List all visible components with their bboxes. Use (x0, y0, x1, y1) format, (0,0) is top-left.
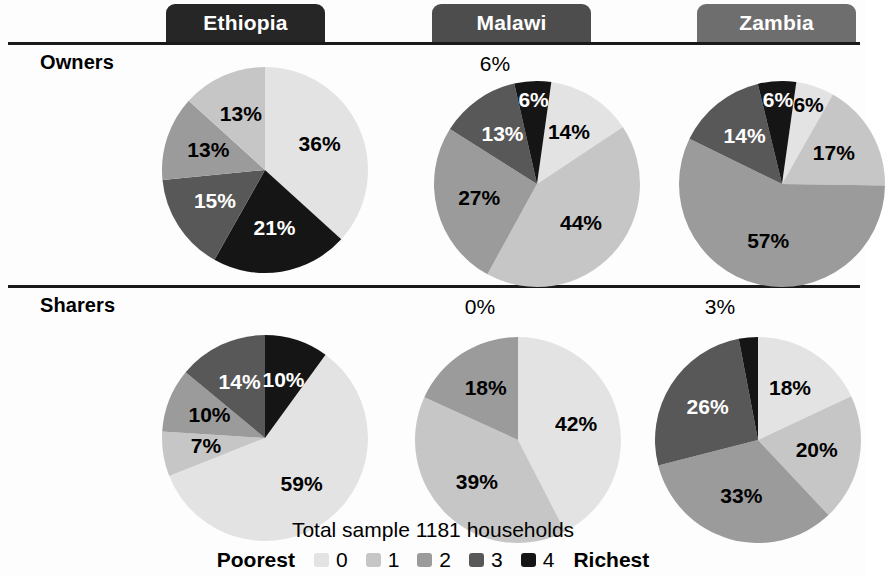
external-label-owners-malawi: 6% (455, 52, 535, 76)
legend-item-3: 3 (460, 548, 512, 572)
pie-sharers-malawi: 42%39%18% (408, 330, 628, 550)
pie-sharers-ethiopia: 59%7%10%14%10% (155, 328, 375, 548)
legend-swatch-0-icon (314, 553, 329, 567)
slice-label: 13% (220, 102, 262, 125)
legend-key-2: 2 (439, 548, 451, 572)
slice-label: 6% (763, 88, 794, 111)
column-tab-label: Zambia (739, 11, 814, 35)
external-label-sharers-zambia: 3% (680, 295, 760, 319)
column-tab-zambia: Zambia (697, 4, 856, 42)
legend-item-0: 0 (305, 548, 357, 572)
slice-label: 6% (793, 93, 824, 116)
slice-label: 44% (560, 211, 602, 234)
slice-label: 21% (253, 216, 295, 239)
pie-owners-zambia: 6%17%57%14%6% (672, 74, 889, 294)
row-label-sharers: Sharers (40, 294, 115, 317)
slice-label: 39% (456, 470, 498, 493)
legend-item-2: 2 (408, 548, 460, 572)
legend-swatch-1-icon (366, 553, 381, 567)
column-tab-label: Ethiopia (203, 11, 287, 35)
slice-label: 13% (481, 122, 523, 145)
slice-label: 14% (219, 370, 261, 393)
slice-label: 20% (796, 438, 838, 461)
row-label-owners: Owners (40, 51, 114, 74)
column-tab-malawi: Malawi (432, 4, 591, 42)
slice-label: 18% (769, 376, 811, 399)
pie-owners-malawi: 14%44%27%13%6% (427, 74, 647, 294)
slice-label: 26% (687, 395, 729, 418)
slice-label: 10% (262, 368, 304, 391)
divider-top (8, 42, 860, 45)
slice-label: 14% (548, 120, 590, 143)
slice-label: 17% (813, 141, 855, 164)
legend-key-0: 0 (336, 548, 348, 572)
legend-swatch-2-icon (417, 553, 432, 567)
legend-swatch-3-icon (469, 553, 484, 567)
legend-item-4: 4 (512, 548, 564, 572)
total-sample-caption: Total sample 1181 households (0, 518, 866, 542)
slice-label: 57% (747, 229, 789, 252)
slice-label: 14% (724, 124, 766, 147)
legend-key-4: 4 (543, 548, 555, 572)
column-tab-label: Malawi (476, 11, 546, 35)
legend: Poorest 0 1 2 3 4 Richest (0, 548, 866, 572)
slice-label: 27% (458, 186, 500, 209)
pie-owners-ethiopia: 36%21%15%13%13% (155, 60, 375, 280)
legend-item-1: 1 (357, 548, 409, 572)
slice-label: 36% (299, 132, 341, 155)
slice-label: 42% (555, 412, 597, 435)
slice-label: 10% (188, 403, 230, 426)
slice-label: 7% (191, 434, 222, 457)
external-label-sharers-malawi: 0% (440, 295, 520, 319)
legend-key-1: 1 (388, 548, 400, 572)
column-tab-ethiopia: Ethiopia (166, 4, 325, 42)
legend-swatch-4-icon (521, 553, 536, 567)
slice-label: 59% (281, 472, 323, 495)
legend-poorest-label: Poorest (207, 548, 305, 572)
legend-richest-label: Richest (563, 548, 659, 572)
slice-label: 18% (465, 376, 507, 399)
legend-key-3: 3 (491, 548, 503, 572)
slice-label: 33% (720, 484, 762, 507)
pie-sharers-zambia: 18%20%33%26% (648, 330, 868, 550)
slice-label: 6% (518, 88, 549, 111)
slice-label: 13% (187, 138, 229, 161)
slice-label: 15% (194, 189, 236, 212)
